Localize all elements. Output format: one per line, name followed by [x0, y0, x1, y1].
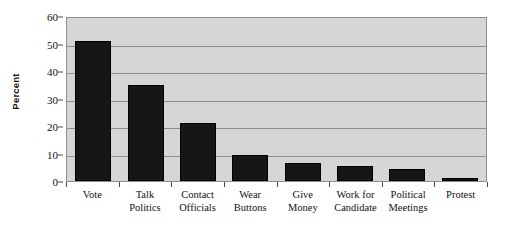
y-axis-tick-mark	[58, 182, 63, 183]
plot-area	[66, 17, 487, 182]
y-axis-tick-mark	[58, 72, 63, 73]
x-axis-category-label-line1: Talk	[136, 189, 155, 200]
y-axis-tick-label: 10	[47, 149, 58, 161]
bar-slot	[172, 18, 224, 181]
x-axis-category-label-line2: Officials	[171, 202, 224, 215]
x-axis-category-label-line2: Politics	[119, 202, 172, 215]
bar-slot	[381, 18, 433, 181]
x-axis-category-label: TalkPolitics	[119, 189, 172, 214]
y-axis-tick-label: 50	[47, 39, 58, 51]
y-axis-tick-mark	[58, 154, 63, 155]
y-axis-tick-mark	[58, 44, 63, 45]
x-axis-category-label-line2: Meetings	[382, 202, 435, 215]
x-axis-category-label: ContactOfficials	[171, 189, 224, 214]
x-axis-tick-mark	[277, 182, 278, 187]
y-axis-tick-label: 30	[47, 94, 58, 106]
bar-series	[67, 18, 486, 181]
x-axis-category-labels: VoteTalkPoliticsContactOfficialsWearButt…	[66, 189, 487, 214]
x-axis-tick-mark	[487, 182, 488, 187]
x-axis-category-label-line1: Protest	[446, 189, 475, 200]
x-axis-tick-marks	[66, 182, 487, 188]
y-axis-title: Percent	[0, 0, 30, 182]
y-axis-title-text: Percent	[10, 73, 21, 109]
bar-slot	[329, 18, 381, 181]
x-axis-category-label-line2: Buttons	[224, 202, 277, 215]
y-axis-tick-mark	[58, 99, 63, 100]
y-axis-tick-label: 60	[47, 11, 58, 23]
y-axis-tick-label: 20	[47, 121, 58, 133]
bar-slot	[224, 18, 276, 181]
y-axis-tick-mark	[58, 17, 63, 18]
x-axis-category-label: Vote	[66, 189, 119, 214]
x-axis-category-label-line2: Money	[277, 202, 330, 215]
bar	[232, 155, 268, 181]
x-axis-category-label-line2: Candidate	[329, 202, 382, 215]
bar	[337, 166, 373, 181]
bar-slot	[67, 18, 119, 181]
x-axis-category-label: Protest	[434, 189, 487, 214]
bar-slot	[434, 18, 486, 181]
x-axis-tick-mark	[66, 182, 67, 187]
x-axis-category-label: GiveMoney	[277, 189, 330, 214]
x-axis-tick-mark	[171, 182, 172, 187]
bar	[442, 178, 478, 181]
x-axis-category-label-line1: Give	[293, 189, 313, 200]
bar-slot	[277, 18, 329, 181]
x-axis-category-label-line1: Contact	[181, 189, 214, 200]
y-axis-tick-label: 40	[47, 66, 58, 78]
x-axis-tick-mark	[434, 182, 435, 187]
x-axis-tick-mark	[329, 182, 330, 187]
bar	[180, 123, 216, 181]
x-axis-tick-mark	[224, 182, 225, 187]
bar-chart-figure: Percent 0102030405060 VoteTalkPoliticsCo…	[0, 0, 513, 234]
x-axis-category-label-line1: Wear	[239, 189, 261, 200]
bar	[285, 163, 321, 181]
bar-slot	[119, 18, 171, 181]
bar	[389, 169, 425, 181]
x-axis-category-label-line1: Vote	[83, 189, 102, 200]
y-axis-tick-labels: 0102030405060	[30, 0, 63, 234]
x-axis-category-label: Work forCandidate	[329, 189, 382, 214]
y-axis-tick-mark	[58, 127, 63, 128]
x-axis-tick-mark	[119, 182, 120, 187]
x-axis-tick-mark	[382, 182, 383, 187]
x-axis-category-label: PoliticalMeetings	[382, 189, 435, 214]
x-axis-category-label-line1: Work for	[336, 189, 374, 200]
bar	[75, 41, 111, 181]
bar	[128, 85, 164, 181]
x-axis-category-label: WearButtons	[224, 189, 277, 214]
x-axis-category-label-line1: Political	[391, 189, 426, 200]
